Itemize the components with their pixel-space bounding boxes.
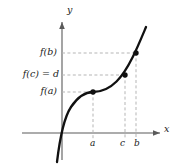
y-label-fb: f(b) [40, 47, 57, 57]
x-tick-label-b: b [134, 139, 140, 148]
y-axis-label: y [67, 5, 72, 15]
x-tick-label-c: c [120, 139, 125, 148]
point-b-dot [133, 50, 138, 55]
y-label-fc-equals-d: f(c) = d [23, 69, 59, 79]
point-a-dot [90, 89, 95, 94]
x-axis-label: x [164, 124, 169, 134]
point-c-dot [122, 72, 127, 77]
x-axis [22, 130, 160, 136]
dashed-guides [62, 53, 136, 139]
intermediate-value-theorem-figure: y x f(b) f(c) = d f(a) a c b [0, 0, 181, 164]
x-tick-label-a: a [90, 139, 95, 148]
function-curve [57, 27, 146, 162]
y-label-fa: f(a) [40, 86, 57, 96]
